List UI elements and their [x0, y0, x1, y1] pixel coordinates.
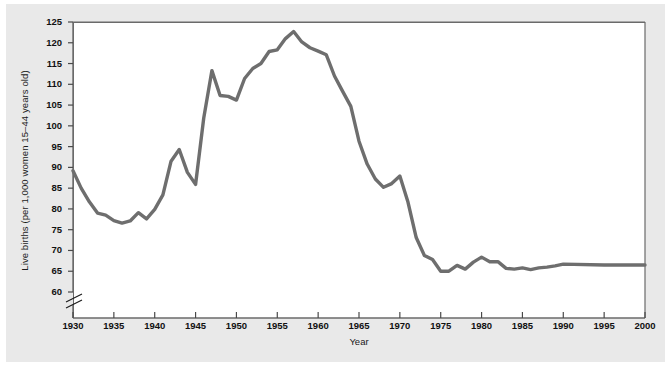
y-tick-label: 125 — [32, 16, 62, 27]
y-tick-label: 105 — [32, 99, 62, 110]
x-tick-label: 1975 — [421, 320, 461, 331]
y-tick-label: 75 — [32, 224, 62, 235]
x-tick-label: 1990 — [543, 320, 583, 331]
x-tick-label: 1980 — [462, 320, 502, 331]
y-tick-label: 110 — [32, 78, 62, 89]
x-tick-label: 1945 — [176, 320, 216, 331]
x-tick-label: 1940 — [135, 320, 175, 331]
x-tick-marks — [73, 312, 645, 318]
figure-container: Live births (per 1,000 women 15–44 years… — [0, 0, 671, 375]
x-tick-label: 1955 — [257, 320, 297, 331]
y-tick-label: 95 — [32, 141, 62, 152]
y-tick-label: 90 — [32, 161, 62, 172]
x-tick-label: 1930 — [53, 320, 93, 331]
x-tick-label: 2000 — [625, 320, 665, 331]
x-tick-label: 1985 — [502, 320, 542, 331]
x-tick-label: 1995 — [584, 320, 624, 331]
y-tick-label: 120 — [32, 37, 62, 48]
y-tick-label: 80 — [32, 203, 62, 214]
y-tick-marks — [68, 22, 73, 292]
x-tick-label: 1960 — [298, 320, 338, 331]
x-tick-label: 1935 — [94, 320, 134, 331]
y-tick-label: 60 — [32, 286, 62, 297]
x-tick-label: 1950 — [216, 320, 256, 331]
y-tick-label: 70 — [32, 244, 62, 255]
data-series-line — [73, 32, 645, 272]
x-tick-label: 1970 — [380, 320, 420, 331]
y-tick-label: 85 — [32, 182, 62, 193]
y-tick-label: 100 — [32, 120, 62, 131]
y-tick-label: 65 — [32, 265, 62, 276]
y-axis-break-icon — [66, 294, 82, 308]
x-tick-label: 1965 — [339, 320, 379, 331]
y-tick-label: 115 — [32, 58, 62, 69]
chart-svg — [0, 0, 671, 375]
